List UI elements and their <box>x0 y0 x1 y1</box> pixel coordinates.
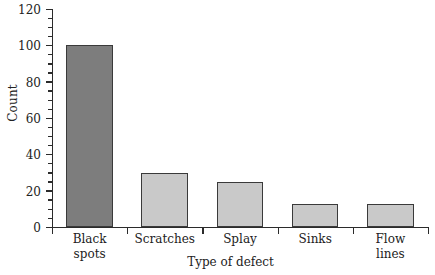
y-axis-tick-minor <box>48 90 52 91</box>
x-axis-title-text: Type of defect <box>187 255 274 269</box>
x-axis-tick-end <box>428 227 429 234</box>
y-axis-tick-major <box>46 45 53 46</box>
y-axis-tick-major <box>46 118 53 119</box>
x-axis-category-label-line: Sinks <box>278 232 353 247</box>
y-axis-tick-minor <box>48 72 52 73</box>
y-axis-tick-minor <box>48 109 52 110</box>
x-axis-category-label-line: Flow <box>353 232 428 247</box>
y-axis-tick-label: 120 <box>7 4 41 16</box>
y-axis-tick-minor <box>48 209 52 210</box>
y-axis-tick-major <box>46 9 53 10</box>
y-axis-line <box>52 10 53 228</box>
y-axis-tick-minor <box>48 100 52 101</box>
y-axis-tick-minor <box>48 145 52 146</box>
y-axis-tick-label: 100 <box>7 40 41 52</box>
y-axis-tick-major <box>46 154 53 155</box>
y-axis-tick-minor <box>48 63 52 64</box>
y-axis-tick-minor <box>48 181 52 182</box>
y-axis-tick-minor <box>48 172 52 173</box>
plot-area <box>52 10 428 228</box>
x-axis-category-label: Splay <box>202 232 277 247</box>
y-axis-tick-minor <box>48 36 52 37</box>
bar <box>292 204 339 227</box>
y-axis-tick-minor <box>48 18 52 19</box>
y-axis-tick-minor <box>48 54 52 55</box>
y-axis-tick-minor <box>48 136 52 137</box>
y-axis-tick-label: 40 <box>7 149 41 161</box>
y-axis-tick-minor <box>48 199 52 200</box>
bar <box>367 204 414 227</box>
y-axis-tick-minor <box>48 27 52 28</box>
bar <box>141 173 188 228</box>
x-axis-title: Type of defect <box>0 255 435 269</box>
y-axis-tick-label: 80 <box>7 77 41 89</box>
y-axis-tick-labels: 020406080100120 <box>5 0 41 275</box>
x-axis-category-label: Scratches <box>127 232 202 247</box>
y-axis-tick-label: 20 <box>7 186 41 198</box>
x-axis-category-label-line: Scratches <box>127 232 202 247</box>
bar <box>66 45 113 227</box>
y-axis-tick-major <box>46 81 53 82</box>
x-axis-category-label-line: Splay <box>202 232 277 247</box>
x-axis-category-label: Sinks <box>278 232 353 247</box>
y-axis-tick-label: 60 <box>7 113 41 125</box>
bar <box>217 182 264 227</box>
y-axis-tick-major <box>46 190 53 191</box>
y-axis-tick-minor <box>48 218 52 219</box>
y-axis-tick-minor <box>48 163 52 164</box>
y-axis-tick-label: 0 <box>7 222 41 234</box>
x-axis-category-label-line: Black <box>52 232 127 247</box>
bar-chart: Count 020406080100120 BlackspotsScratche… <box>0 0 435 275</box>
y-axis-tick-minor <box>48 127 52 128</box>
